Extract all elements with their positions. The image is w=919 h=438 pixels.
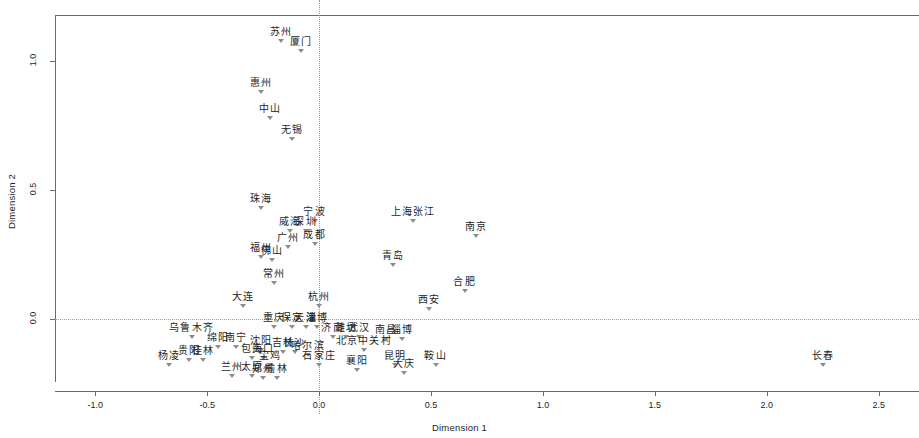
y-tick [50,61,55,62]
data-point-label: 珠海 [250,193,272,204]
triangle-down-marker-icon [303,325,309,329]
triangle-down-marker-icon [410,219,416,223]
data-point-label: 长春 [812,350,834,361]
data-point-label: 淄博 [391,324,413,335]
data-point-label: 大庆 [393,358,415,369]
data-point-label: 惠州 [250,77,272,88]
triangle-down-marker-icon [269,258,275,262]
triangle-down-marker-icon [289,137,295,141]
triangle-down-marker-icon [316,304,322,308]
triangle-down-marker-icon [330,335,336,339]
data-point-label: 深圳 [294,216,316,227]
triangle-down-marker-icon [401,371,407,375]
triangle-down-marker-icon [316,363,322,367]
x-tick [655,391,656,396]
data-point-label: 桂林 [192,345,214,356]
x-tick [431,391,432,396]
y-axis-title: Dimension 2 [6,157,17,247]
triangle-down-marker-icon [233,345,239,349]
x-axis-title: Dimension 1 [0,422,919,433]
triangle-down-marker-icon [285,245,291,249]
x-tick-label: 2.0 [761,400,774,410]
x-tick-label: 0.5 [425,400,438,410]
triangle-down-marker-icon [166,363,172,367]
triangle-down-marker-icon [314,325,320,329]
triangle-down-marker-icon [354,368,360,372]
data-point-label: 合肥 [453,276,475,287]
triangle-down-marker-icon [258,90,264,94]
triangle-down-marker-icon [249,356,255,360]
x-tick-label: 1.5 [649,400,662,410]
data-point-label: 中山 [259,103,281,114]
data-point-label: 大连 [232,291,254,302]
y-tick-label: 0.0 [28,307,38,329]
data-point-label: 青岛 [382,250,404,261]
data-point-label: 西安 [418,294,440,305]
data-point-label: 兰州 [221,361,243,372]
triangle-down-marker-icon [274,376,280,380]
triangle-down-marker-icon [820,363,826,367]
scatter-plot: -1.0-0.50.00.51.01.52.02.5 0.00.51.0 苏州厦… [0,0,919,438]
triangle-down-marker-icon [260,376,266,380]
triangle-down-marker-icon [280,350,286,354]
data-point-label: 榆林 [265,363,287,374]
x-tick-label: -1.0 [88,400,104,410]
data-point-label: 鞍山 [424,350,446,361]
data-point-label: 武汉 [348,322,370,333]
triangle-down-marker-icon [462,289,468,293]
triangle-down-marker-icon [289,325,295,329]
data-point-label: 上海张江 [391,206,436,217]
triangle-down-marker-icon [189,335,195,339]
triangle-down-marker-icon [258,206,264,210]
triangle-down-marker-icon [390,263,396,267]
triangle-down-marker-icon [258,255,264,259]
data-point-label: 广州 [277,232,299,243]
triangle-down-marker-icon [426,307,432,311]
y-tick [50,190,55,191]
triangle-down-marker-icon [271,281,277,285]
data-point-label: 苏州 [270,26,292,37]
triangle-down-marker-icon [267,116,273,120]
triangle-down-marker-icon [186,358,192,362]
triangle-down-marker-icon [312,242,318,246]
data-point-label: 杨凌 [158,350,180,361]
x-tick [767,391,768,396]
zero-horizontal-reference-line [55,319,919,320]
y-tick-label: 1.0 [28,49,38,71]
triangle-down-marker-icon [249,374,255,378]
data-point-label: 厦门 [290,36,312,47]
data-point-label: 无锡 [281,124,303,135]
triangle-down-marker-icon [399,337,405,341]
triangle-down-marker-icon [215,345,221,349]
triangle-down-marker-icon [298,49,304,53]
data-point-label: 襄阳 [346,355,368,366]
x-axis-line [55,391,919,392]
x-tick [207,391,208,396]
triangle-down-marker-icon [200,358,206,362]
triangle-down-marker-icon [292,350,298,354]
data-point-label: 南京 [465,221,487,232]
x-tick [879,391,880,396]
x-tick-label: 0.0 [313,400,326,410]
x-tick [543,391,544,396]
triangle-down-marker-icon [361,348,367,352]
data-point-label: 北京中关村 [336,335,392,346]
x-tick [95,391,96,396]
triangle-down-marker-icon [229,374,235,378]
triangle-down-marker-icon [433,363,439,367]
triangle-down-marker-icon [278,39,284,43]
triangle-down-marker-icon [271,325,277,329]
data-point-label: 石家庄 [302,350,336,361]
x-tick-label: 2.5 [872,400,885,410]
y-tick-label: 0.5 [28,178,38,200]
triangle-down-marker-icon [240,304,246,308]
data-point-label: 成都 [303,229,325,240]
x-tick-label: -0.5 [199,400,215,410]
data-point-label: 常州 [263,268,285,279]
x-tick [319,391,320,396]
triangle-down-marker-icon [473,234,479,238]
y-axis-line [55,15,56,382]
y-tick [50,319,55,320]
data-point-label: 佛山 [261,245,283,256]
data-point-label: 杭州 [308,291,330,302]
